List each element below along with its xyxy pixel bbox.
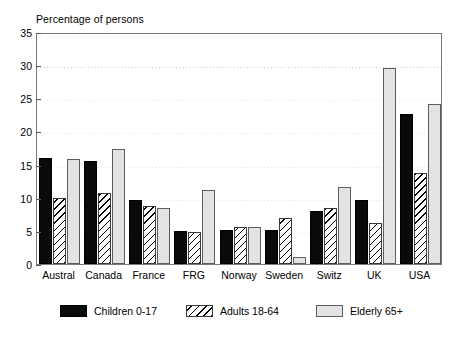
x-tick-label: Canada (85, 269, 122, 281)
y-tick-label: 5 (2, 226, 32, 238)
bar (157, 208, 170, 264)
bar (53, 198, 66, 264)
legend-label: Children 0-17 (94, 305, 157, 317)
x-tick-label: Sweden (265, 269, 303, 281)
y-tick-mark (36, 33, 41, 34)
bar (39, 158, 52, 264)
bar-chart-figure: Percentage of persons 05101520253035 Aus… (0, 0, 462, 340)
y-tick-mark (36, 166, 41, 167)
bar (112, 149, 125, 264)
bar (293, 257, 306, 264)
x-tick-label: Switz (317, 269, 342, 281)
bar (338, 187, 351, 264)
y-tick-label: 15 (2, 160, 32, 172)
legend-item: Elderly 65+ (316, 305, 403, 317)
bar (383, 68, 396, 264)
bar (324, 208, 337, 264)
bar (414, 173, 427, 264)
x-axis: AustralCanadaFranceFRGNorwaySwedenSwitzU… (36, 269, 442, 285)
bar (143, 206, 156, 264)
bar (279, 218, 292, 264)
y-tick-label: 25 (2, 93, 32, 105)
bar (428, 104, 441, 264)
bar (98, 193, 111, 264)
legend-item: Children 0-17 (60, 305, 157, 317)
y-tick-label: 20 (2, 126, 32, 138)
bar (84, 161, 97, 264)
plot-area (36, 33, 442, 265)
bar (234, 227, 247, 264)
x-tick-label: FRG (183, 269, 205, 281)
y-tick-mark (36, 232, 41, 233)
x-tick-label: Austral (42, 269, 75, 281)
bar (129, 200, 142, 264)
bar (400, 114, 413, 264)
bar-group (220, 34, 261, 264)
chart-title: Percentage of persons (36, 13, 144, 25)
bar (202, 190, 215, 264)
x-tick-label: UK (367, 269, 382, 281)
bar (220, 230, 233, 264)
y-tick-mark (36, 265, 41, 266)
y-axis: 05101520253035 (0, 33, 32, 265)
legend-swatch-adults (186, 305, 213, 317)
y-tick-label: 30 (2, 60, 32, 72)
x-tick-label: Norway (221, 269, 257, 281)
bar-group (310, 34, 351, 264)
legend-swatch-children (60, 305, 87, 317)
bar-group (174, 34, 215, 264)
bar (265, 230, 278, 264)
y-tick-mark (36, 66, 41, 67)
y-tick-label: 0 (2, 259, 32, 271)
legend-label: Adults 18-64 (220, 305, 279, 317)
plot-inner (37, 34, 441, 264)
bar-group (400, 34, 441, 264)
x-tick-label: France (132, 269, 165, 281)
y-tick-mark (36, 99, 41, 100)
bar (67, 159, 80, 264)
y-tick-label: 10 (2, 193, 32, 205)
bar-group (355, 34, 396, 264)
bar (355, 200, 368, 264)
legend-item: Adults 18-64 (186, 305, 279, 317)
bar-group (39, 34, 80, 264)
chart-legend: Children 0-17Adults 18-64Elderly 65+ (0, 305, 462, 327)
bar (174, 231, 187, 264)
bar (248, 227, 261, 264)
y-tick-label: 35 (2, 27, 32, 39)
bar-group (84, 34, 125, 264)
y-tick-mark (36, 199, 41, 200)
legend-label: Elderly 65+ (350, 305, 403, 317)
y-tick-mark (36, 132, 41, 133)
bar-group (265, 34, 306, 264)
legend-swatch-elderly (316, 305, 343, 317)
bar (310, 211, 323, 264)
bar-group (129, 34, 170, 264)
bar (369, 223, 382, 264)
bar (188, 232, 201, 264)
x-tick-label: USA (409, 269, 431, 281)
